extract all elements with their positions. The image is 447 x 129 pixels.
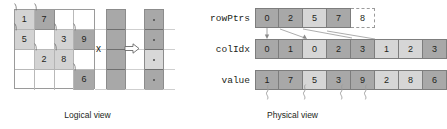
- array-cell: 7: [327, 8, 351, 28]
- matrix-row: 17: [15, 10, 94, 30]
- logical-view: 17539286: [14, 9, 95, 89]
- array-cell: 7: [279, 70, 303, 90]
- array-cell: 3: [351, 39, 375, 59]
- matrix-cell-nonzero: 5: [15, 30, 35, 50]
- matrix-row: 6: [15, 70, 94, 90]
- array-label: colIdx: [190, 44, 255, 55]
- array-cell: 8: [399, 70, 423, 90]
- physical-array-value: value17539286: [190, 70, 447, 90]
- array-label: rowPtrs: [190, 13, 255, 24]
- array-cells: 17539286: [255, 70, 447, 90]
- squiggle-mark: [265, 84, 271, 104]
- array-cell: 2: [375, 70, 399, 90]
- squiggle-mark: [302, 84, 308, 104]
- array-cell: 1: [279, 39, 303, 59]
- array-cell: 2: [327, 39, 351, 59]
- matrix-cell-zero: [74, 10, 94, 30]
- nonzero-pointer-icon: [14, 3, 19, 10]
- array-cell: 3: [423, 39, 447, 59]
- matrix-cell-nonzero: 3: [55, 30, 75, 50]
- vector-entry-dot-icon: [153, 19, 155, 21]
- array-cell: 0: [255, 8, 279, 28]
- matrix-cell-zero: [15, 70, 35, 90]
- matrix-cell-nonzero: 8: [55, 50, 75, 70]
- array-cell: 6: [423, 70, 447, 90]
- matrix-cell-zero: [74, 50, 94, 70]
- matrix-cell-zero: [35, 70, 55, 90]
- sparse-matrix-grid: 17539286: [14, 9, 95, 89]
- array-cell: 2: [399, 39, 423, 59]
- result-vector-segment: [145, 70, 163, 90]
- result-vector: [144, 9, 164, 89]
- array-cell: 1: [375, 39, 399, 59]
- matrix-row: 539: [15, 30, 94, 50]
- matrix-cell-zero: [15, 50, 35, 70]
- input-vector-segment: [107, 10, 125, 30]
- vector-entry-dot-icon: [153, 59, 155, 61]
- physical-array-rowptrs: rowPtrs02578: [190, 8, 375, 28]
- logical-view-caption: Logical view: [0, 110, 175, 120]
- array-cell: 0: [255, 39, 279, 59]
- matrix-cell-zero: [55, 70, 75, 90]
- squiggle-mark: [339, 84, 345, 104]
- matrix-cell-zero: [55, 10, 75, 30]
- matrix-cell-nonzero: 7: [35, 10, 55, 30]
- result-vector-segment: [145, 50, 163, 70]
- right-arrow-icon: [124, 40, 140, 58]
- matrix-cell-nonzero: 1: [15, 10, 35, 30]
- result-vector-segment: [145, 30, 163, 50]
- matrix-cell-nonzero: 6: [74, 70, 94, 90]
- input-vector-segment: [107, 70, 125, 90]
- vector-entry-dot-icon: [153, 39, 155, 41]
- squiggle-mark: [363, 84, 369, 104]
- matrix-cell-zero: [35, 30, 55, 50]
- result-vector-segment: [145, 10, 163, 30]
- array-cell: 2: [279, 8, 303, 28]
- matrix-cell-nonzero: 2: [35, 50, 55, 70]
- nonzero-pointer-icon: [34, 3, 39, 10]
- array-cell: 0: [303, 39, 327, 59]
- multiply-symbol: x: [96, 43, 101, 54]
- matrix-cell-nonzero: 9: [74, 30, 94, 50]
- input-vector-segment: [107, 30, 125, 50]
- array-cell: 5: [303, 8, 327, 28]
- array-cell: 8: [351, 8, 375, 28]
- physical-view-caption: Physical view: [205, 110, 380, 120]
- matrix-row: 28: [15, 50, 94, 70]
- physical-array-colidx: colIdx01023123: [190, 39, 447, 59]
- input-vector-segment: [107, 50, 125, 70]
- array-label: value: [190, 75, 255, 86]
- array-cells: 02578: [255, 8, 375, 28]
- vector-entry-dot-icon: [153, 79, 155, 81]
- input-vector: [106, 9, 126, 89]
- array-cells: 01023123: [255, 39, 447, 59]
